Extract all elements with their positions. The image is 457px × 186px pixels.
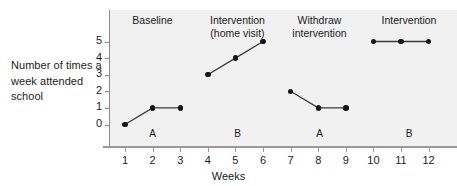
x-tick-mark xyxy=(180,147,181,152)
x-tick-label: 4 xyxy=(199,154,217,166)
y-tick-mark xyxy=(105,108,110,109)
data-point xyxy=(178,105,183,110)
panel-title: Intervention xyxy=(361,14,457,27)
y-tick-label: 1 xyxy=(88,100,102,112)
x-tick-label: 3 xyxy=(171,154,189,166)
panel-title: Withdraw intervention xyxy=(280,14,359,40)
phase-label: A xyxy=(280,128,359,139)
x-tick-mark xyxy=(235,147,236,152)
x-tick-label: 8 xyxy=(309,154,327,166)
x-tick-label: 1 xyxy=(116,154,134,166)
x-tick-mark xyxy=(153,147,154,152)
x-tick-mark xyxy=(401,147,402,152)
x-tick-mark xyxy=(429,147,430,152)
y-tick-label: 3 xyxy=(88,67,102,79)
x-tick-mark xyxy=(346,147,347,152)
y-tick-mark xyxy=(105,91,110,92)
y-axis-line xyxy=(109,10,110,146)
data-point xyxy=(260,39,265,44)
data-point xyxy=(205,72,210,77)
data-point xyxy=(150,105,155,110)
x-tick-label: 11 xyxy=(392,154,410,166)
data-point xyxy=(398,39,403,44)
x-tick-label: 10 xyxy=(364,154,382,166)
x-tick-label: 6 xyxy=(254,154,272,166)
x-tick-label: 7 xyxy=(282,154,300,166)
panel-title: Baseline xyxy=(110,14,195,27)
x-tick-mark xyxy=(208,147,209,152)
phase-panel: Withdraw interventionA xyxy=(280,10,359,146)
x-axis-line xyxy=(103,146,457,148)
y-tick-label: 2 xyxy=(88,84,102,96)
x-tick-mark xyxy=(291,147,292,152)
x-tick-mark xyxy=(318,147,319,152)
x-tick-label: 2 xyxy=(144,154,162,166)
x-tick-mark xyxy=(263,147,264,152)
y-tick-label: 4 xyxy=(88,51,102,63)
phase-panel: Intervention (home visit)B xyxy=(197,10,278,146)
x-axis-label: Weeks xyxy=(0,170,457,182)
x-tick-label: 12 xyxy=(420,154,438,166)
y-axis-label: Number of times a week attended school xyxy=(11,58,103,105)
data-point xyxy=(122,122,127,127)
chart-figure: Number of times a week attended school B… xyxy=(0,0,457,186)
x-tick-mark xyxy=(373,147,374,152)
phase-label: A xyxy=(110,128,195,139)
plot-area: BaselineAIntervention (home visit)BWithd… xyxy=(110,10,457,146)
y-tick-label: 0 xyxy=(88,117,102,129)
y-tick-mark xyxy=(105,125,110,126)
x-tick-mark xyxy=(125,147,126,152)
phase-panel: InterventionB xyxy=(361,10,457,146)
x-tick-label: 5 xyxy=(226,154,244,166)
phase-label: B xyxy=(361,128,457,139)
y-tick-mark xyxy=(105,58,110,59)
panel-title: Intervention (home visit) xyxy=(197,14,278,40)
x-tick-label: 9 xyxy=(337,154,355,166)
y-tick-mark xyxy=(105,75,110,76)
y-tick-label: 5 xyxy=(88,34,102,46)
data-point xyxy=(343,105,348,110)
y-tick-mark xyxy=(105,42,110,43)
phase-label: B xyxy=(197,128,278,139)
data-point xyxy=(233,55,238,60)
data-point xyxy=(316,105,321,110)
